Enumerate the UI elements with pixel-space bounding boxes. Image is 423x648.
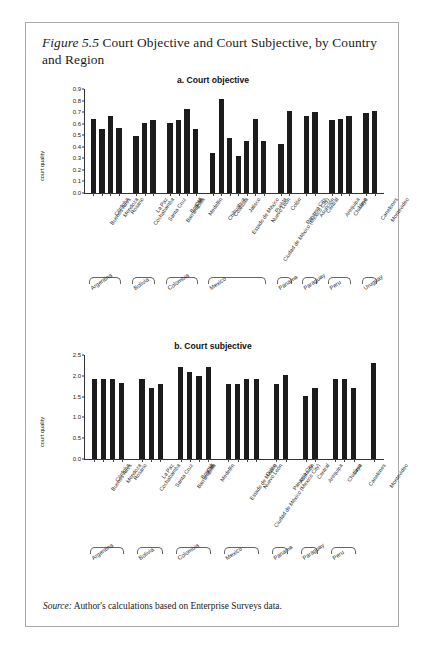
ytick-label: 0.0 — [73, 190, 81, 196]
xtick-mark — [228, 459, 229, 462]
panel-a-title: a. Court objective — [26, 75, 400, 85]
xtick-mark — [238, 193, 239, 196]
xtick-mark — [213, 193, 214, 196]
xtick-mark — [366, 193, 367, 196]
ytick-label: 2.0 — [73, 373, 81, 379]
bar — [254, 379, 259, 459]
bar — [333, 379, 338, 459]
bar — [133, 136, 138, 193]
source-note: Source: Author's calculations based on E… — [43, 600, 388, 612]
bar — [210, 153, 215, 193]
ytick-label: 0.5 — [73, 435, 81, 441]
xtick-mark — [93, 193, 94, 196]
xtick-mark — [247, 193, 248, 196]
xtick-mark — [289, 193, 290, 196]
ytick-label: 0.4 — [73, 144, 81, 150]
bar — [338, 119, 343, 193]
xtick-mark — [341, 193, 342, 196]
xtick-mark — [264, 193, 265, 196]
xtick-mark — [306, 459, 307, 462]
panel-b-ylabel: court quality — [39, 417, 45, 447]
xtick-mark — [136, 193, 137, 196]
xtick-mark — [335, 459, 336, 462]
xtick-mark — [113, 459, 114, 462]
xtick-mark — [315, 459, 316, 462]
panel-court-objective: a. Court objective court quality 0.00.10… — [26, 75, 400, 355]
ytick-label: 1.0 — [73, 414, 81, 420]
panel-a-bars — [84, 89, 384, 193]
bar — [226, 384, 231, 459]
xtick-mark — [94, 459, 95, 462]
xtick-mark — [196, 193, 197, 196]
xtick-mark — [332, 193, 333, 196]
bar — [342, 379, 347, 459]
xtick-mark — [153, 193, 154, 196]
xtick-mark — [110, 193, 111, 196]
xtick-mark — [375, 193, 376, 196]
bar — [99, 129, 104, 193]
ytick-label: 1.5 — [73, 394, 81, 400]
xaxis-city-label: Montevideo — [389, 463, 409, 489]
bar — [329, 120, 334, 193]
bar — [116, 128, 121, 193]
source-label: Source: — [43, 601, 72, 611]
panel-a-yticks: 0.00.10.20.30.40.50.60.70.80.9 — [60, 89, 84, 193]
panel-a-xaxis — [84, 193, 384, 194]
xtick-mark — [151, 459, 152, 462]
ytick-label: 0.8 — [73, 98, 81, 104]
xtick-mark — [354, 459, 355, 462]
xtick-mark — [247, 459, 248, 462]
xtick-mark — [306, 193, 307, 196]
xtick-mark — [281, 193, 282, 196]
xtick-mark — [315, 193, 316, 196]
bar — [283, 375, 288, 459]
xtick-mark — [145, 193, 146, 196]
xtick-mark — [179, 193, 180, 196]
xaxis-city-label: Lima — [352, 463, 363, 476]
xaxis-city-label: Medellín — [207, 197, 223, 217]
xaxis-city-label: Jalisco — [248, 197, 262, 214]
figure-page: Figure 5.5 Court Objective and Court Sub… — [25, 22, 399, 627]
xtick-mark — [119, 193, 120, 196]
xaxis-city-label: Colón — [290, 197, 303, 212]
bar — [244, 141, 249, 193]
xtick-mark — [256, 459, 257, 462]
bar — [158, 384, 163, 459]
panel-b-bars — [84, 355, 384, 459]
bar — [178, 367, 183, 459]
bar — [304, 116, 309, 193]
xtick-mark — [276, 459, 277, 462]
ytick-label: 0.0 — [73, 456, 81, 462]
xtick-mark — [238, 459, 239, 462]
xtick-mark — [199, 459, 200, 462]
bar — [227, 138, 232, 193]
bar — [278, 144, 283, 193]
bar — [150, 120, 155, 193]
bar — [206, 367, 211, 459]
country-group-label: Paraguay — [303, 273, 327, 292]
bar — [110, 379, 115, 459]
bar — [274, 384, 279, 459]
xtick-mark — [349, 193, 350, 196]
xtick-mark — [344, 459, 345, 462]
bar — [253, 119, 258, 193]
bar — [363, 113, 368, 193]
bar — [176, 120, 181, 193]
bar — [372, 111, 377, 193]
xtick-mark — [286, 459, 287, 462]
xtick-mark — [255, 193, 256, 196]
ytick-label: 0.9 — [73, 86, 81, 92]
bar — [235, 384, 240, 459]
ytick-label: 2.5 — [73, 352, 81, 358]
xtick-mark — [103, 459, 104, 462]
xtick-mark — [160, 459, 161, 462]
xtick-mark — [102, 193, 103, 196]
xtick-mark — [187, 193, 188, 196]
bar — [303, 396, 308, 459]
panel-b-yticks: 0.00.51.01.52.02.5 — [60, 355, 84, 459]
bar — [92, 379, 97, 459]
source-text: Author's calculations based on Enterpris… — [74, 601, 282, 611]
panel-a-axes — [84, 89, 384, 193]
panel-b-xaxis — [84, 459, 384, 460]
country-group-label: Paraguay — [302, 543, 326, 562]
